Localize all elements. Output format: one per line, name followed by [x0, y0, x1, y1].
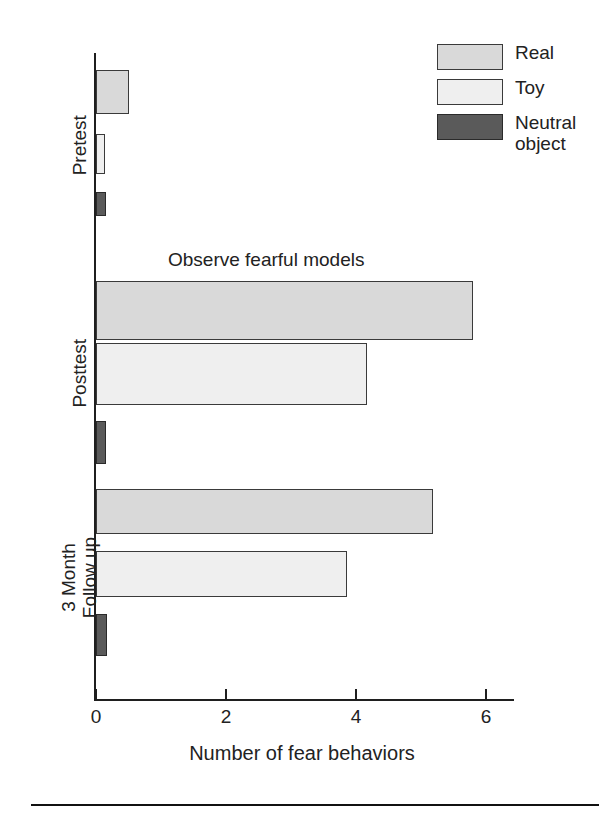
- legend-item-neutral-object: Neutral object: [437, 114, 597, 155]
- bar-followup-real: [96, 489, 433, 534]
- legend-swatch-toy: [437, 79, 503, 105]
- legend-label-toy: Toy: [515, 77, 545, 98]
- chart-legend: Real Toy Neutral object: [437, 44, 597, 164]
- x-tick-label-2: 2: [221, 706, 232, 728]
- bar-pretest-real: [96, 70, 129, 114]
- bar-posttest-neutral-object: [96, 421, 106, 464]
- x-tick-2: [225, 689, 227, 700]
- bar-posttest-real: [96, 281, 473, 340]
- x-tick-label-0: 0: [91, 706, 102, 728]
- bar-pretest-neutral-object: [96, 192, 106, 216]
- bar-followup-toy: [96, 551, 347, 597]
- x-axis-title: Number of fear behaviors: [96, 742, 508, 765]
- annotation-observe-fearful-models: Observe fearful models: [168, 249, 364, 271]
- bar-pretest-toy: [96, 134, 105, 174]
- x-tick-6: [485, 689, 487, 700]
- x-tick-4: [355, 689, 357, 700]
- legend-swatch-neutral-object: [437, 114, 503, 140]
- figure: Real Toy Neutral object 0 2 4 6 Observe …: [0, 0, 612, 825]
- bar-posttest-toy: [96, 343, 367, 405]
- legend-item-toy: Toy: [437, 79, 597, 105]
- legend-swatch-real: [437, 44, 503, 70]
- group-label-pretest: Pretest: [70, 85, 91, 205]
- legend-item-real: Real: [437, 44, 597, 70]
- x-tick-label-6: 6: [481, 706, 492, 728]
- group-label-3-month-follow-up: 3 Month Follow up: [59, 500, 100, 655]
- legend-label-neutral-object: Neutral object: [515, 112, 576, 155]
- legend-label-real: Real: [515, 42, 554, 63]
- group-label-posttest: Posttest: [70, 313, 91, 433]
- x-tick-0: [95, 689, 97, 700]
- x-tick-label-4: 4: [351, 706, 362, 728]
- x-axis-line: [94, 699, 514, 701]
- bottom-divider: [31, 804, 599, 806]
